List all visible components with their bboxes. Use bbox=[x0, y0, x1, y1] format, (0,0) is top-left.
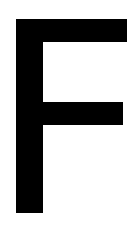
letter-f-glyph: F bbox=[0, 0, 138, 235]
letter-f-middle-bar bbox=[16, 102, 123, 125]
letter-f-top-bar bbox=[16, 19, 127, 42]
glyph-character: F bbox=[0, 0, 1, 1]
